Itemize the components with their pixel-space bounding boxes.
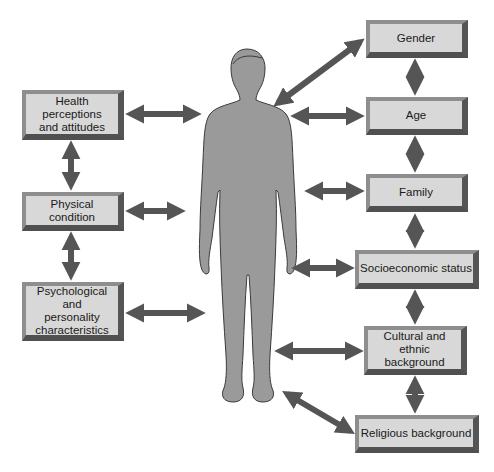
factor-box-ses: Socioeconomic status	[355, 250, 479, 289]
factor-box-age: Age	[366, 97, 468, 135]
factor-box-culture: Cultural and ethnic background	[364, 326, 467, 375]
diagram-canvas	[0, 0, 494, 472]
factor-box-psych: Psychological and personality characteri…	[22, 282, 124, 341]
arrow-person-religion	[287, 394, 350, 431]
factor-label-family: Family	[399, 186, 433, 199]
arrow-person-gender	[278, 42, 360, 103]
factor-label-psych: Psychological and personality characteri…	[26, 285, 118, 337]
factor-label-gender: Gender	[397, 32, 435, 45]
factor-label-health: Health perceptions and attitudes	[26, 95, 118, 134]
factor-label-physical: Physical condition	[26, 198, 118, 224]
factor-box-family: Family	[366, 174, 468, 212]
factor-box-health: Health perceptions and attitudes	[22, 90, 124, 140]
factor-label-culture: Cultural and ethnic background	[368, 330, 461, 369]
factor-box-religion: Religious background	[355, 415, 479, 453]
factor-box-gender: Gender	[366, 20, 468, 58]
factor-box-physical: Physical condition	[22, 192, 124, 231]
factor-label-religion: Religious background	[361, 427, 472, 440]
factor-label-age: Age	[406, 109, 426, 122]
factor-label-ses: Socioeconomic status	[360, 262, 472, 275]
